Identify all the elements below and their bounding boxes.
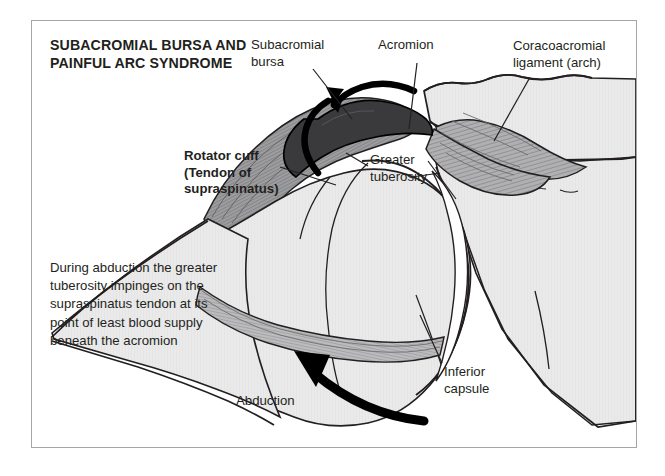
figure-root: SUBACROMIAL BURSA AND PAINFUL ARC SYNDRO…: [0, 0, 665, 476]
label-rotator-cuff: Rotator cuff (Tendon of supraspinatus): [184, 148, 279, 198]
anatomy-illustration: [32, 21, 636, 447]
label-coracoacromial-ligament: Coracoacromial ligament (arch): [513, 38, 605, 71]
label-acromion: Acromion: [378, 37, 434, 54]
label-subacromial-bursa: Subacromial bursa: [251, 37, 324, 70]
figure-frame: SUBACROMIAL BURSA AND PAINFUL ARC SYNDRO…: [31, 20, 637, 448]
label-abduction: Abduction: [236, 393, 295, 410]
leader-greater-tuberosity-a: [346, 153, 368, 166]
label-inferior-capsule: Inferior capsule: [444, 364, 489, 397]
description-text: During abduction the greater tuberosity …: [50, 259, 236, 350]
label-greater-tuberosity: Greater tuberosity: [370, 152, 427, 185]
page-title: SUBACROMIAL BURSA AND PAINFUL ARC SYNDRO…: [50, 37, 285, 73]
